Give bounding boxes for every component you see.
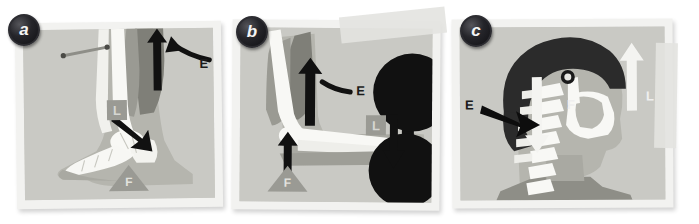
tape-strip-c <box>654 43 678 148</box>
panel-badge-c: c <box>460 15 492 47</box>
fulcrum-triangle-a: F <box>109 165 149 191</box>
panel-a: L E F <box>15 21 223 210</box>
panel-badge-a: a <box>8 14 40 46</box>
effort-label-a: E <box>199 56 208 71</box>
load-label-a-text: L <box>113 102 121 117</box>
panel-b: E L F <box>231 19 440 210</box>
load-label-b-text: L <box>372 118 380 133</box>
load-label-b: L <box>366 115 386 135</box>
fulcrum-label-c: F <box>567 97 576 112</box>
figure-root: L E F <box>0 0 699 224</box>
panel-c: E F L <box>452 18 674 208</box>
fulcrum-triangle-b: F <box>267 166 307 192</box>
panel-c-canvas: E F L <box>460 26 666 200</box>
fulcrum-label-b-text: F <box>281 176 293 190</box>
load-label-a: L <box>107 100 127 120</box>
effort-label-b: E <box>356 83 365 98</box>
panel-b-canvas: E L F <box>239 27 432 202</box>
panel-badge-b: b <box>236 16 268 48</box>
load-label-c: L <box>646 89 655 104</box>
fulcrum-joint-center <box>564 73 571 80</box>
effort-label-c: E <box>465 97 474 112</box>
fulcrum-label-a-text: F <box>123 175 135 189</box>
panel-c-artwork <box>460 26 666 200</box>
panel-a-canvas: L E F <box>23 28 215 200</box>
